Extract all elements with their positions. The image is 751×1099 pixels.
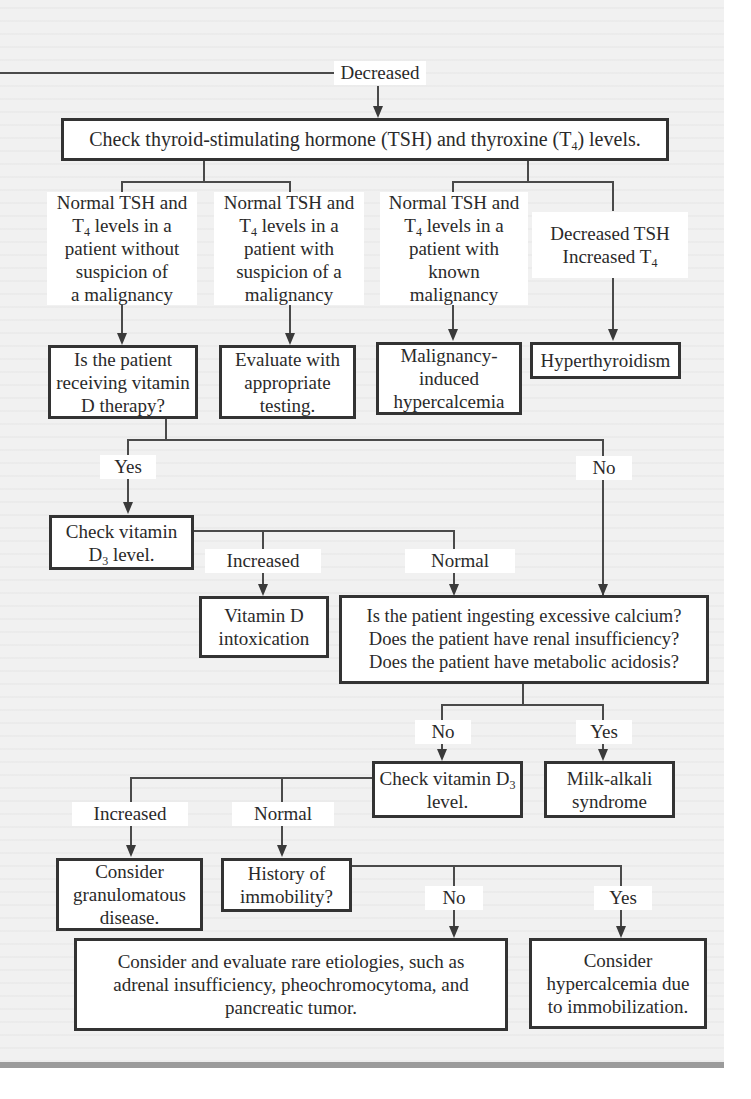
granulomatous-disease-box: Consider granulomatous disease. (56, 858, 203, 931)
label-yes: Yes (576, 720, 632, 744)
arrow-down-icon (437, 749, 447, 761)
text: level. (108, 544, 154, 565)
connector (127, 439, 604, 441)
arrow-down-icon (285, 333, 295, 345)
connector (0, 72, 336, 74)
connector (612, 181, 614, 211)
arrow-down-icon (449, 926, 459, 938)
connector (452, 181, 614, 183)
connector (165, 419, 167, 440)
text: Normal TSH and (57, 192, 188, 213)
milk-alkali-syndrome-box: Milk-alkali syndrome (544, 761, 675, 818)
condition-known-malignancy: Normal TSH andT4 levels in apatient with… (380, 192, 528, 305)
text: levels in a (422, 215, 504, 236)
box-text: Check thyroid-stimulating hormone (TSH) … (89, 128, 571, 150)
text: patient with suspicion of a malignancy (236, 238, 342, 305)
evaluate-testing-box: Evaluate with appropriate testing. (219, 345, 356, 419)
text: patient with known malignancy (409, 238, 499, 305)
text: D (88, 544, 102, 565)
question-text: Is the patient ingesting excessive calci… (367, 606, 682, 626)
question-text: Does the patient have renal insufficienc… (369, 629, 679, 649)
text: Normal TSH and (389, 192, 520, 213)
condition-decreased-tsh: Decreased TSHIncreased T4 (532, 212, 688, 278)
question-text: Does the patient have metabolic acidosis… (369, 652, 679, 672)
connector (452, 305, 454, 331)
history-of-immobility-box: History of immobility? (221, 858, 352, 912)
connector (121, 305, 123, 335)
box-text: ) levels. (577, 128, 640, 150)
text: Decreased TSH (550, 223, 669, 244)
arrow-down-icon (126, 845, 136, 857)
text: levels in a (90, 215, 172, 236)
label-yes: Yes (100, 455, 156, 479)
connector (527, 161, 529, 182)
arrow-down-icon (616, 926, 626, 938)
arrow-down-icon (277, 845, 287, 857)
connector (377, 86, 379, 108)
connector (289, 305, 291, 335)
text: T (239, 215, 251, 236)
arrow-down-icon (258, 584, 268, 596)
label-increased: Increased (205, 549, 321, 573)
check-tsh-t4-box: Check thyroid-stimulating hormone (TSH) … (61, 118, 669, 161)
connector (352, 865, 622, 867)
check-vitd3-box: Check vitaminD3 level. (49, 515, 194, 570)
label-yes: Yes (594, 886, 652, 910)
text: Normal TSH and (224, 192, 355, 213)
arrow-down-icon (117, 333, 127, 345)
connector (130, 777, 372, 779)
calcium-renal-acidosis-questions-box: Is the patient ingesting excessive calci… (339, 595, 709, 684)
text: Check vitamin (66, 521, 177, 542)
arrow-down-icon (608, 329, 618, 341)
connector (612, 278, 614, 331)
text: T (72, 215, 84, 236)
arrow-down-icon (123, 502, 133, 514)
vitd-therapy-question-box: Is the patient receiving vitamin D thera… (48, 345, 198, 419)
text: levels in a (257, 215, 339, 236)
check-vitd3-box-2: Check vitamin D3level. (372, 761, 523, 818)
label-increased: Increased (72, 802, 188, 826)
arrow-down-icon (598, 749, 608, 761)
arrow-down-icon (448, 329, 458, 341)
connector (121, 181, 291, 183)
text: Check vitamin D (380, 768, 510, 789)
connector (522, 684, 524, 705)
text: patient without suspicion of a malignanc… (65, 238, 180, 305)
text: Increased T (563, 246, 652, 267)
vitd-intoxication-box: Vitamin D intoxication (199, 596, 329, 658)
condition-no-suspicion: Normal TSH andT4 levels in apatient with… (47, 192, 197, 305)
label-normal: Normal (232, 802, 334, 826)
label-normal: Normal (405, 549, 515, 573)
immobilization-hypercalcemia-box: Consider hypercalcemia due to immobiliza… (529, 938, 707, 1029)
page-bottom-rule (0, 1062, 724, 1068)
subscript: 4 (651, 256, 657, 270)
rare-etiologies-box: Consider and evaluate rare etiologies, s… (74, 938, 508, 1031)
label-no: No (576, 456, 632, 480)
connector (441, 704, 604, 706)
label-no: No (415, 720, 471, 744)
label-decreased: Decreased (334, 61, 426, 85)
text: level. (427, 791, 469, 812)
connector (194, 530, 455, 532)
hyperthyroidism-box: Hyperthyroidism (530, 342, 681, 379)
text: T (404, 215, 416, 236)
subscript: 3 (509, 778, 515, 792)
label-no: No (425, 886, 483, 910)
arrow-down-icon (373, 106, 383, 118)
connector (203, 161, 205, 182)
condition-with-suspicion: Normal TSH andT4 levels in apatient with… (214, 192, 364, 305)
malignancy-hypercalcemia-box: Malignancy- induced hypercalcemia (376, 342, 522, 415)
